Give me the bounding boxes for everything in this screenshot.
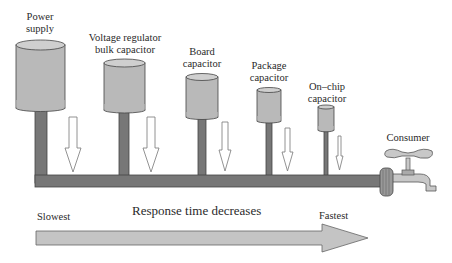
label-line: capacitor	[305, 93, 349, 105]
label-line: Voltage regulator	[85, 32, 165, 44]
label-fastest: Fastest	[319, 210, 348, 222]
capacitor-vrm	[104, 59, 145, 113]
label-line: bulk capacitor	[85, 44, 165, 56]
label-slowest: Slowest	[37, 211, 70, 223]
label-line: capacitor	[178, 58, 226, 70]
pipe-vrm	[119, 110, 129, 180]
label-consumer: Consumer	[382, 132, 434, 144]
capacitor-package	[257, 88, 281, 124]
main-pipe	[35, 175, 385, 187]
label-response-time: Response time decreases	[132, 205, 261, 217]
response-time-arrow	[36, 224, 368, 252]
flow-arrow-3	[219, 122, 231, 171]
label-vrm: Voltage regulator bulk capacitor	[85, 32, 165, 56]
flow-arrow-5	[336, 136, 343, 170]
label-power-supply: Power supply	[20, 11, 60, 35]
pipe-board	[198, 117, 206, 179]
label-board: Board capacitor	[178, 46, 226, 70]
capacitor-board	[186, 74, 218, 120]
capacitor-power-supply	[16, 40, 65, 112]
flow-arrow-4	[282, 128, 293, 171]
flow-arrow-1	[65, 117, 81, 172]
pipe-onchip	[324, 130, 328, 179]
label-line: Package	[244, 60, 294, 72]
flow-arrow-2	[143, 117, 159, 172]
label-line: capacitor	[244, 72, 294, 84]
pipe-power	[35, 108, 47, 183]
label-package: Package capacitor	[244, 60, 294, 84]
capacitor-onchip	[318, 105, 334, 132]
label-line: supply	[20, 23, 60, 35]
pipe-package	[266, 121, 272, 179]
label-onchip: On–chip capacitor	[305, 81, 349, 105]
label-line: On–chip	[305, 81, 349, 93]
label-line: Power	[20, 11, 60, 23]
faucet-icon	[380, 149, 436, 196]
label-line: Board	[178, 46, 226, 58]
